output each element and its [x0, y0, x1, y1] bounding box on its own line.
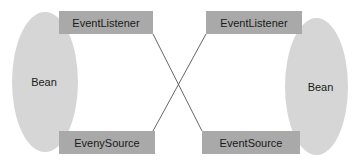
right-bean-label: Bean: [308, 81, 334, 93]
right-event-source-box: EventSource: [202, 131, 300, 154]
left-event-listener-box: EventListener: [59, 11, 153, 34]
left-bean-label: Bean: [31, 76, 57, 88]
left-event-source-label: EvenySource: [74, 137, 139, 149]
right-event-listener-box: EventListener: [206, 11, 302, 34]
right-event-source-label: EventSource: [220, 137, 283, 149]
left-event-listener-label: EventListener: [72, 17, 139, 29]
right-event-listener-label: EventListener: [220, 17, 287, 29]
connector-listener-to-source: [153, 34, 202, 131]
connector-source-to-listener: [153, 34, 206, 131]
left-event-source-box: EvenySource: [59, 131, 155, 154]
